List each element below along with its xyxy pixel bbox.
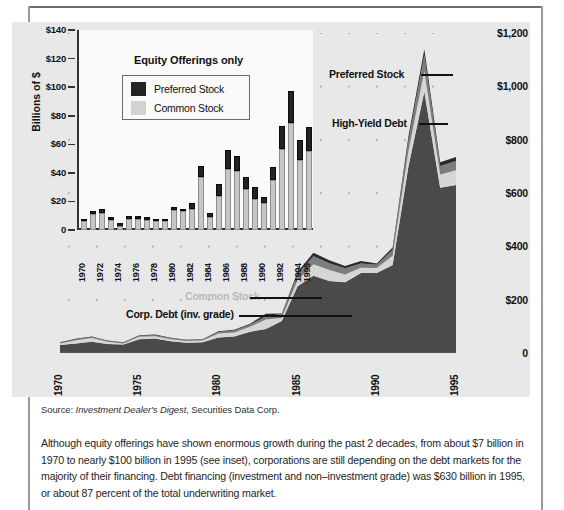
inset-bar-segment-preferred [270,167,276,180]
inset-bar-segment-common [81,221,87,230]
inset-y-tick-mark [68,29,75,31]
inset-bar-segment-common [261,203,267,230]
inset-bar-segment-preferred [297,140,303,160]
legend-swatch-common-icon [131,101,146,115]
inset-bar [297,140,303,230]
inset-x-label-1982: 1982 [185,263,195,282]
inset-bar-segment-common [243,189,249,230]
inset-x-label-1972: 1972 [95,263,105,282]
inset-bar [99,209,105,230]
y-tick-1000: $1,000 [462,80,528,92]
inset-bar-segment-preferred [234,156,240,172]
main-x-label-1980: 1980 [211,375,222,396]
inset-y-tick-mark [68,86,75,88]
leader-line-corp-debt [239,315,352,317]
main-x-label-1990: 1990 [370,375,381,396]
inset-bar-segment-common [99,213,105,230]
inset-bar [225,150,231,230]
inset-bar [279,126,285,230]
inset-bar [81,219,87,230]
inset-bar-segment-common [171,210,177,230]
inset-bar [180,209,186,230]
inset-x-label-1992: 1992 [275,263,285,282]
inset-bar [135,216,141,230]
inset-bar-segment-preferred [279,126,285,149]
inset-legend: Preferred Stock Common Stock [122,75,250,120]
inset-x-label-1978: 1978 [149,263,159,282]
inset-y-axis: 0$20$40$60$80$100$120$140 [22,30,77,230]
inset-x-label-1988: 1988 [239,263,249,282]
inset-y-tick-100: $100 [22,81,66,92]
inset-x-label-1995: 1995 [302,263,312,282]
inset-bar-segment-common [306,151,312,230]
inset-bar [126,216,132,230]
leader-line-high-yield-debt [419,123,448,125]
inset-y-tick-mark [68,172,75,174]
inset-x-label-1974: 1974 [113,263,123,282]
inset-y-tick-0: 0 [22,224,66,235]
inset-y-tick-mark [68,201,75,203]
inset-bar-segment-common [135,219,141,230]
inset-y-tick-mark [68,144,75,146]
inset-bar-segment-common [279,149,285,230]
inset-y-tick-20: $20 [22,195,66,206]
inset-bar-segment-common [180,211,186,230]
inset-bar [162,219,168,230]
inset-bar [234,156,240,230]
legend-item-common-stock: Common Stock [131,100,223,116]
inset-bar-segment-preferred [99,209,105,213]
inset-bar [216,184,222,230]
inset-y-tick-80: $80 [22,110,66,121]
source-suffix: , Securities Data Corp. [186,404,279,415]
inset-x-label-1976: 1976 [131,263,141,282]
y-tick-400: $400 [462,240,528,252]
y-tick-800: $800 [462,134,528,146]
inset-bar-segment-preferred [198,166,204,177]
inset-bar-segment-preferred [189,203,195,209]
inset-bar-segment-common [234,171,240,230]
inset-bar [189,203,195,230]
inset-bar-segment-preferred [180,209,186,212]
leader-line-common-stock [250,297,322,299]
inset-bar-segment-preferred [135,216,141,219]
source-publication: Investment Dealer's Digest [76,404,187,415]
inset-bar-segment-preferred [81,219,87,222]
inset-bar-segment-common [207,217,213,230]
inset-bar-segment-preferred [162,219,168,222]
inset-bar-chart: Billions of $ 0$20$40$60$80$100$120$140 … [22,30,314,282]
inset-bar-segment-common [225,169,231,230]
inset-bar [288,91,294,230]
inset-bar-segment-common [90,214,96,230]
inset-y-tick-140: $140 [22,24,66,35]
inset-x-label-1994: 1994 [293,263,303,282]
inset-bar [153,219,159,230]
inset-bar-segment-common [162,221,168,230]
figure-caption: Although equity offerings have shown eno… [41,435,526,501]
inset-y-tick-120: $120 [22,53,66,64]
inset-x-label-1984: 1984 [203,263,213,282]
inset-bar [207,213,213,230]
main-x-label-1985: 1985 [291,375,302,396]
inset-bar-segment-preferred [261,197,267,203]
main-x-label-1995: 1995 [449,375,460,396]
inset-bar-segment-common [216,196,222,230]
inset-bar-segment-common [252,199,258,230]
inset-bar [270,167,276,230]
legend-label-preferred-stock: Preferred Stock [154,83,224,95]
inset-bar-segment-preferred [126,216,132,219]
inset-bar-segment-common [198,177,204,230]
inset-bar [198,166,204,230]
callout-common-stock: Common Stock [185,290,260,302]
inset-y-tick-40: $40 [22,167,66,178]
source-prefix: Source: [41,404,76,415]
inset-bar [90,211,96,230]
callout-preferred-stock: Preferred Stock [329,68,404,80]
inset-bar-segment-preferred [252,187,258,198]
y-tick-600: $600 [462,187,528,199]
inset-bar-segment-common [297,160,303,230]
inset-x-label-1970: 1970 [77,263,87,282]
callout-high-yield-debt: High-Yield Debt [332,117,407,129]
inset-bar-segment-preferred [117,223,123,226]
inset-title: Equity Offerings only [134,54,243,66]
inset-bar-segment-common [126,219,132,230]
